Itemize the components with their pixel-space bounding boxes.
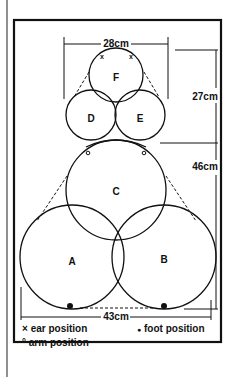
neck-band [86, 140, 146, 147]
label-b: B [160, 254, 167, 265]
dim-base-width: 43cm [103, 311, 129, 322]
dashed-body-right [166, 176, 196, 221]
pattern-diagram: x x A B C D E F 28cm 27cm 46cm [0, 0, 235, 377]
label-c: C [112, 186, 119, 197]
arm-mark-right [142, 151, 146, 155]
label-d: D [87, 113, 94, 124]
dashed-head-left [74, 72, 89, 97]
ear-mark-left: x [100, 53, 104, 60]
ear-icon: × [22, 323, 28, 334]
legend-ear-label: ear position [31, 323, 88, 334]
legend-foot: ● foot position [137, 323, 205, 334]
arm-icon: ° [22, 337, 26, 348]
dim-head-height: 27cm [192, 91, 218, 102]
foot-mark-left [67, 303, 73, 309]
label-a: A [68, 256, 75, 267]
arm-mark-left [86, 151, 90, 155]
diagram-frame [14, 20, 221, 342]
legend-arm-label: arm position [29, 337, 89, 348]
ear-mark-right: x [129, 53, 133, 60]
legend-foot-label: foot position [144, 323, 205, 334]
legend-ear: × ear position [22, 323, 87, 334]
label-e: E [137, 113, 144, 124]
dashed-body-left [37, 176, 67, 221]
label-f: F [113, 72, 119, 83]
dim-head-width: 28cm [103, 38, 129, 49]
dim-body-height: 46cm [192, 161, 218, 172]
legend-arm: ° arm position [22, 337, 89, 348]
foot-mark-right [161, 303, 167, 309]
foot-icon: ● [137, 326, 141, 333]
